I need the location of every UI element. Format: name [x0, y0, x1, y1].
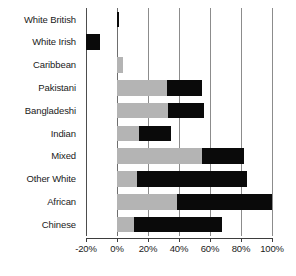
bars-layer	[86, 8, 272, 236]
bar-segment-black-segment	[167, 80, 203, 96]
x-tick-mark	[272, 238, 273, 242]
x-tick-label: 80%	[232, 244, 250, 254]
y-axis-label-bangladeshi: Bangladeshi	[0, 99, 82, 122]
x-tick-label: 20%	[139, 244, 157, 254]
y-axis-label-indian: Indian	[0, 122, 82, 145]
bar-chart: White British White Irish Caribbean Paki…	[0, 0, 296, 276]
bar-row[interactable]	[86, 190, 272, 213]
x-tick-label: 60%	[201, 244, 219, 254]
y-axis-label-chinese: Chinese	[0, 213, 82, 236]
x-tick-mark	[86, 238, 87, 242]
bar-segment-black-segment	[137, 171, 247, 187]
bar-segment-gray-segment	[117, 171, 137, 187]
bar-segment-gray-segment	[117, 126, 139, 142]
bar-row[interactable]	[86, 31, 272, 54]
bar-segment-gray-segment	[117, 57, 123, 73]
y-axis-label-caribbean: Caribbean	[0, 54, 82, 77]
bar-segment-black-segment	[139, 126, 172, 142]
x-tick-mark	[117, 238, 118, 242]
y-axis-label-other-white: Other White	[0, 168, 82, 191]
x-tick-label: 100%	[260, 244, 284, 254]
y-axis-label-mixed: Mixed	[0, 145, 82, 168]
bar-row[interactable]	[86, 54, 272, 77]
y-axis-label-white-irish: White Irish	[0, 31, 82, 54]
x-tick-label: 0%	[110, 244, 123, 254]
bar-row[interactable]	[86, 145, 272, 168]
y-axis-label-pakistani: Pakistani	[0, 76, 82, 99]
bar-segment-black-segment	[117, 12, 119, 28]
x-tick-mark	[241, 238, 242, 242]
x-tick-label: 40%	[170, 244, 188, 254]
bar-segment-black-segment	[134, 217, 222, 233]
y-axis-label-white-british: White British	[0, 8, 82, 31]
bar-segment-black-segment	[177, 194, 272, 210]
bar-segment-gray-segment	[117, 80, 167, 96]
bar-row[interactable]	[86, 168, 272, 191]
bar-segment-black-segment	[86, 34, 100, 50]
bar-segment-black-segment	[168, 103, 204, 119]
bar-row[interactable]	[86, 76, 272, 99]
bar-row[interactable]	[86, 122, 272, 145]
bar-segment-gray-segment	[117, 103, 168, 119]
bar-segment-gray-segment	[117, 194, 177, 210]
plot-area	[86, 8, 272, 236]
y-axis-category-labels: White British White Irish Caribbean Paki…	[0, 8, 82, 236]
bar-segment-black-segment	[202, 148, 244, 164]
bar-segment-gray-segment	[117, 148, 202, 164]
x-tick-mark	[148, 238, 149, 242]
gridline-100pct	[272, 8, 273, 236]
bar-row[interactable]	[86, 8, 272, 31]
bar-row[interactable]	[86, 213, 272, 236]
x-tick-label: -20%	[75, 244, 96, 254]
x-tick-mark	[179, 238, 180, 242]
bar-segment-gray-segment	[117, 217, 134, 233]
y-axis-label-african: African	[0, 190, 82, 213]
x-tick-mark	[210, 238, 211, 242]
bar-row[interactable]	[86, 99, 272, 122]
